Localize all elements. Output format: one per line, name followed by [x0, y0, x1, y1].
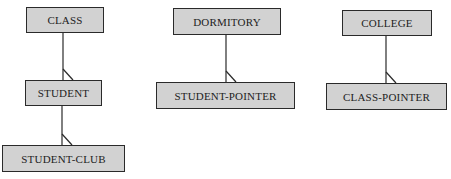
- edge-student-studentclub: [62, 106, 72, 145]
- node-student-club: STUDENT-CLUB: [2, 145, 125, 172]
- node-dormitory: DORMITORY: [173, 8, 281, 35]
- node-class-pointer: CLASS-POINTER: [326, 83, 447, 110]
- node-student: STUDENT: [25, 80, 102, 106]
- node-student-pointer: STUDENT-POINTER: [156, 82, 295, 109]
- edge-dormitory-studentpointer: [226, 35, 236, 82]
- node-class: CLASS: [26, 7, 104, 33]
- edge-college-classpointer: [386, 36, 396, 83]
- edge-class-student: [63, 33, 73, 80]
- node-college: COLLEGE: [342, 10, 432, 36]
